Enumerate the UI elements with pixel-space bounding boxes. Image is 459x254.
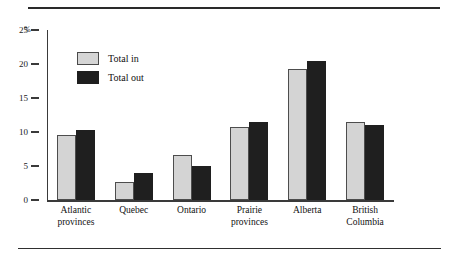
y-axis-tick: 20 <box>5 59 39 69</box>
x-axis-tick-label: Ontario <box>163 205 221 217</box>
x-axis-label-line: British <box>336 205 394 217</box>
bottom-rule <box>18 248 441 249</box>
bar-total-in <box>57 135 76 200</box>
bar-total-in <box>230 127 249 200</box>
bar-total-out <box>76 130 95 200</box>
bar-group <box>346 30 384 200</box>
bar-group <box>115 30 153 200</box>
cropped-title-fragment <box>36 0 186 4</box>
y-axis-tick-label: 5 <box>24 161 29 171</box>
x-axis-tick-label: BritishColumbia <box>336 205 394 228</box>
bar-group <box>230 30 268 200</box>
x-axis-tick-label: Prairieprovinces <box>221 205 279 228</box>
y-axis-tick-mark <box>31 165 39 167</box>
y-axis-tick: 10 <box>5 127 39 137</box>
bar-group <box>57 30 95 200</box>
y-axis-tick-mark <box>31 29 39 31</box>
bar-total-out <box>192 166 211 200</box>
bar-total-out <box>307 61 326 200</box>
bar-total-out <box>134 173 153 200</box>
x-axis-label-line: provinces <box>221 217 279 229</box>
bar-group <box>173 30 211 200</box>
chart-figure: % 2520151050 Total in Total out Atlantic… <box>0 0 459 254</box>
x-axis-label-line: Columbia <box>336 217 394 229</box>
bar-group <box>288 30 326 200</box>
y-axis-tick: 5 <box>5 161 39 171</box>
y-axis-tick-label: 0 <box>24 195 29 205</box>
y-axis-tick: 15 <box>5 93 39 103</box>
y-axis-tick: 25 <box>5 25 39 35</box>
bar-total-in <box>288 69 307 200</box>
x-axis-line <box>47 200 394 202</box>
x-axis-tick-label: Atlanticprovinces <box>47 205 105 228</box>
x-axis-label-line: provinces <box>47 217 105 229</box>
x-axis-label-line: Quebec <box>105 205 163 217</box>
y-axis-tick-mark <box>31 199 39 201</box>
x-axis-label-line: Alberta <box>278 205 336 217</box>
bar-total-in <box>173 155 192 200</box>
y-axis-tick-label: 25 <box>19 25 28 35</box>
x-axis-tick-label: Quebec <box>105 205 163 217</box>
y-axis-tick-label: 15 <box>19 93 28 103</box>
y-axis-tick-label: 20 <box>19 59 28 69</box>
y-axis-tick-mark <box>31 63 39 65</box>
y-axis-tick-mark <box>31 97 39 99</box>
x-axis-label-line: Ontario <box>163 205 221 217</box>
bar-group-container <box>47 30 394 200</box>
x-axis-tick-label: Alberta <box>278 205 336 217</box>
top-rule <box>28 7 440 9</box>
y-axis-tick-mark <box>31 131 39 133</box>
y-axis-tick-label: 10 <box>19 127 28 137</box>
x-axis-label-line: Atlantic <box>47 205 105 217</box>
y-axis-tick: 0 <box>5 195 39 205</box>
bar-total-out <box>249 122 268 200</box>
bar-total-in <box>346 122 365 200</box>
bar-total-in <box>115 182 134 200</box>
x-axis-label-line: Prairie <box>221 205 279 217</box>
x-axis-label-group: AtlanticprovincesQuebecOntarioPrairiepro… <box>47 205 394 245</box>
bar-total-out <box>365 125 384 200</box>
